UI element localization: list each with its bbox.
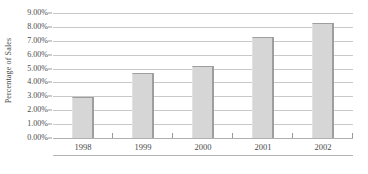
y-axis-tick-label: 5.00% <box>27 65 48 73</box>
y-axis-tick-label: 0.00% <box>27 134 48 142</box>
bar-slot <box>293 13 353 138</box>
y-axis-tick-mark <box>48 68 52 69</box>
y-axis-tick-label: 3.00% <box>27 92 48 100</box>
y-axis-tick-labels: 9.00%8.00%7.00%6.00%5.00%4.00%3.00%2.00%… <box>16 13 52 138</box>
footer-divider <box>53 155 353 156</box>
bar-slot <box>113 13 173 138</box>
bar-chart-figure: Percentage of Sales 9.00%8.00%7.00%6.00%… <box>0 0 368 174</box>
y-axis-tick-label: 7.00% <box>27 37 48 45</box>
bar-2000[interactable] <box>192 66 214 138</box>
y-axis-tick-label: 4.00% <box>27 78 48 86</box>
y-axis-tick-label: 8.00% <box>27 23 48 31</box>
y-axis-tick-mark <box>48 26 52 27</box>
plot-area <box>53 13 353 138</box>
y-axis-tick-mark <box>48 54 52 55</box>
bar-slot <box>173 13 233 138</box>
x-axis-tick-label: 1999 <box>113 140 173 154</box>
y-axis-tick-mark <box>48 138 52 139</box>
bar-2002[interactable] <box>312 23 334 138</box>
bar-slot <box>53 13 113 138</box>
y-axis-tick-mark <box>48 96 52 97</box>
y-axis-tick-label: 1.00% <box>27 120 48 128</box>
x-axis-tick-labels: 19981999200020012002 <box>53 140 353 154</box>
bar-slot <box>233 13 293 138</box>
y-axis-tick-mark <box>48 13 52 14</box>
y-axis-tick-mark <box>48 82 52 83</box>
x-axis-tick-mark <box>352 133 353 138</box>
y-axis-tick-mark <box>48 110 52 111</box>
y-axis-tick-label: 2.00% <box>27 106 48 114</box>
bar-2001[interactable] <box>252 37 274 138</box>
y-axis-tick-label: 9.00% <box>27 9 48 17</box>
bar-1999[interactable] <box>132 73 154 138</box>
x-axis-tick-label: 2001 <box>233 140 293 154</box>
y-axis-title-label: Percentage of Sales <box>5 37 14 103</box>
y-axis-tick-mark <box>48 124 52 125</box>
y-axis-tick-mark <box>48 40 52 41</box>
x-axis-tick-label: 2000 <box>173 140 233 154</box>
y-axis-tick-label: 6.00% <box>27 51 48 59</box>
x-axis-tick-label: 2002 <box>293 140 353 154</box>
bar-1998[interactable] <box>72 97 94 138</box>
axis-baseline <box>53 138 353 139</box>
x-axis-tick-label: 1998 <box>53 140 113 154</box>
bars-container <box>53 13 353 138</box>
